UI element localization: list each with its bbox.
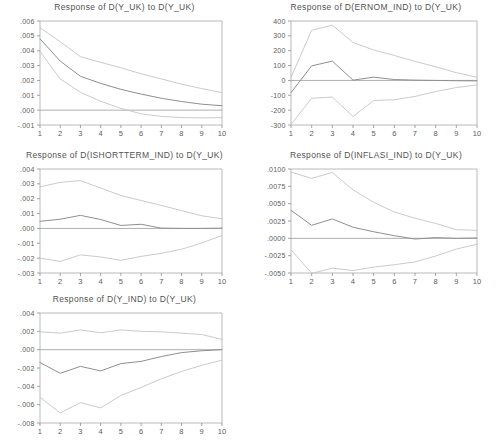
series-lower-band [40, 236, 222, 262]
x-tick-label: 4 [98, 277, 102, 286]
x-tick-label: 1 [289, 129, 293, 138]
y-tick-label: 0 [281, 77, 285, 84]
x-tick-label: 1 [38, 129, 42, 138]
y-tick-label: -200 [271, 107, 286, 114]
chart-title: Response of D(ERNOM_IND) to D(Y_UK) [253, 2, 499, 13]
y-tick-label: .001 [20, 210, 34, 217]
series-upper-band [40, 28, 222, 93]
x-tick-label: 9 [200, 129, 204, 138]
x-tick-label: 3 [78, 277, 82, 286]
y-tick-label: .004 [20, 47, 34, 54]
y-tick-label: .005 [20, 32, 34, 39]
x-tick-label: 7 [159, 427, 163, 436]
x-tick-label: 6 [139, 129, 143, 138]
y-tick-label: -.001 [18, 122, 35, 129]
y-tick-label: .000 [20, 225, 34, 232]
y-tick-label: -.008 [18, 420, 35, 427]
plot-area: .004.002.000-.002-.004-.006-.00812345678… [0, 305, 249, 442]
y-tick-label: .002 [20, 328, 34, 335]
chart-title: Response of D(Y_UK) to D(Y_UK) [0, 2, 249, 13]
irf-chart-response-ishortterm-ind-to-y-uk: Response of D(ISHORTTERM_IND) to D(Y_UK)… [0, 150, 249, 295]
y-tick-label: .0025 [267, 218, 286, 225]
plot-frame [291, 21, 477, 125]
y-tick-label: .004 [20, 310, 34, 317]
x-tick-label: 2 [309, 277, 313, 286]
series-lower-band [40, 360, 222, 413]
series-lower-band [291, 85, 477, 125]
x-tick-label: 7 [413, 129, 417, 138]
series-impulse-response [291, 61, 477, 92]
y-tick-label: -.004 [18, 383, 35, 390]
y-tick-label: .0050 [267, 200, 286, 207]
chart-title: Response of D(Y_IND) to D(Y_UK) [0, 294, 249, 305]
y-tick-label: .0000 [267, 235, 286, 242]
x-tick-label: 5 [119, 129, 123, 138]
chart-title: Response of D(INFLASI_IND) to D(Y_UK) [253, 150, 499, 161]
x-tick-label: 2 [58, 129, 62, 138]
x-tick-label: 5 [119, 427, 123, 436]
x-tick-label: 10 [218, 277, 227, 286]
y-tick-label: -.0025 [264, 252, 285, 259]
series-upper-band [40, 181, 222, 219]
irf-chart-response-ernom-ind-to-y-uk: Response of D(ERNOM_IND) to D(Y_UK)40030… [253, 2, 499, 147]
series-impulse-response [291, 210, 477, 239]
x-tick-label: 8 [433, 277, 437, 286]
plot-frame [40, 21, 222, 125]
x-tick-label: 10 [218, 427, 227, 436]
y-tick-label: -.006 [18, 401, 35, 408]
y-tick-label: -.0050 [264, 270, 285, 277]
x-tick-label: 6 [392, 129, 396, 138]
x-tick-label: 6 [139, 277, 143, 286]
y-tick-label: 300 [273, 32, 285, 39]
x-tick-label: 8 [179, 129, 183, 138]
y-tick-label: -.001 [18, 240, 35, 247]
y-tick-label: 200 [273, 47, 285, 54]
x-tick-label: 10 [473, 129, 482, 138]
x-tick-label: 3 [330, 129, 334, 138]
y-tick-label: .0075 [267, 183, 286, 190]
y-tick-label: .002 [20, 195, 34, 202]
chart-title: Response of D(ISHORTTERM_IND) to D(Y_UK) [0, 150, 249, 161]
series-impulse-response [40, 350, 222, 374]
x-tick-label: 10 [218, 129, 227, 138]
plot-frame [40, 169, 222, 273]
x-tick-label: 3 [330, 277, 334, 286]
x-tick-label: 9 [200, 427, 204, 436]
plot-area: .006.005.004.003.002.001.000-.0011234567… [0, 13, 249, 145]
x-tick-label: 2 [58, 427, 62, 436]
y-tick-label: -300 [271, 122, 286, 129]
plot-area: .0100.0075.0050.0025.0000-.0025-.0050123… [253, 161, 499, 293]
series-impulse-response [40, 215, 222, 228]
x-tick-label: 1 [289, 277, 293, 286]
x-tick-label: 9 [200, 277, 204, 286]
x-tick-label: 1 [38, 277, 42, 286]
series-impulse-response [40, 39, 222, 106]
series-lower-band [40, 51, 222, 117]
impulse-response-panel-grid: Response of D(Y_UK) to D(Y_UK).006.005.0… [0, 0, 499, 445]
x-tick-label: 3 [78, 427, 82, 436]
series-upper-band [291, 25, 477, 77]
plot-area: 4003002001000-100-200-30012345678910 [253, 13, 499, 145]
x-tick-label: 2 [309, 129, 313, 138]
x-tick-label: 4 [98, 129, 102, 138]
y-tick-label: -.002 [18, 255, 35, 262]
x-tick-label: 4 [351, 129, 355, 138]
irf-chart-response-y-ind-to-y-uk: Response of D(Y_IND) to D(Y_UK).004.002.… [0, 294, 249, 444]
x-tick-label: 5 [371, 129, 375, 138]
y-tick-label: .006 [20, 18, 34, 25]
x-tick-label: 2 [58, 277, 62, 286]
plot-frame [40, 313, 222, 423]
y-tick-label: -.003 [18, 270, 35, 277]
x-tick-label: 9 [454, 277, 458, 286]
y-tick-label: 100 [273, 62, 285, 69]
x-tick-label: 8 [433, 129, 437, 138]
x-tick-label: 7 [413, 277, 417, 286]
y-tick-label: -.002 [18, 365, 35, 372]
series-upper-band [291, 172, 477, 230]
x-tick-label: 4 [351, 277, 355, 286]
x-tick-label: 5 [119, 277, 123, 286]
x-tick-label: 4 [98, 427, 102, 436]
irf-chart-response-y-uk-to-y-uk: Response of D(Y_UK) to D(Y_UK).006.005.0… [0, 2, 249, 147]
y-tick-label: .002 [20, 77, 34, 84]
x-tick-label: 7 [159, 129, 163, 138]
